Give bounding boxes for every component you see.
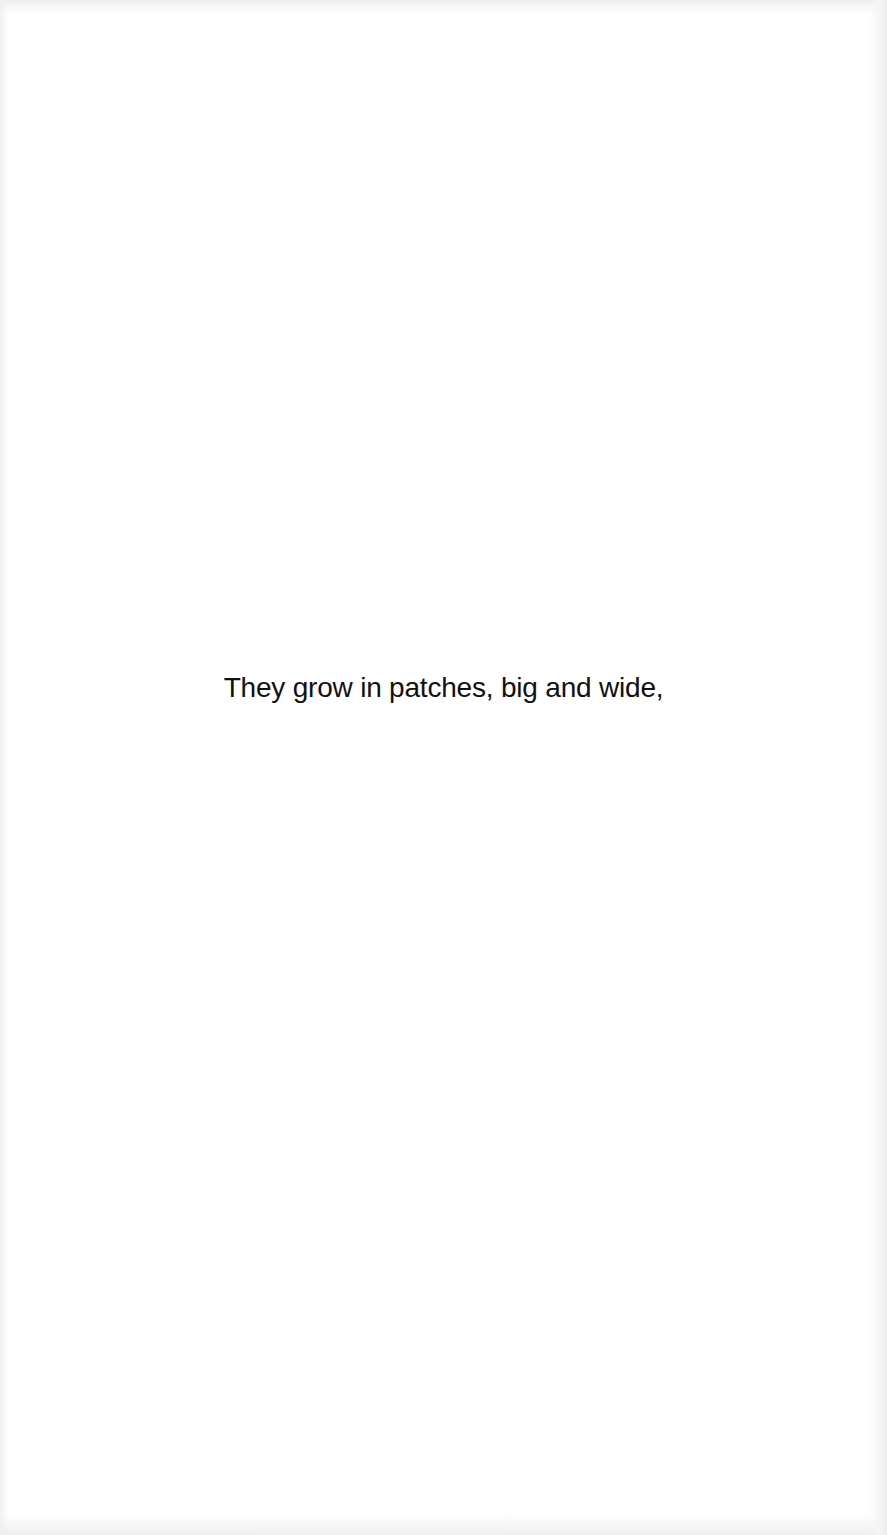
- scan-edge-left: [0, 0, 8, 1535]
- body-text-line: They grow in patches, big and wide,: [0, 668, 887, 708]
- scan-edge-bottom: [0, 1513, 887, 1535]
- scan-edge-top: [0, 0, 887, 14]
- scan-edge-right: [869, 0, 887, 1535]
- document-page: They grow in patches, big and wide,: [0, 0, 887, 1535]
